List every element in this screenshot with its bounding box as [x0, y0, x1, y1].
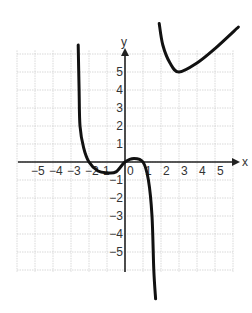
- y-tick-label: 5: [116, 65, 123, 79]
- axes: x y: [18, 35, 248, 272]
- y-axis-label: y: [121, 35, 127, 49]
- y-tick-label: −4: [109, 227, 123, 241]
- function-graph: x y −5−4−3−21012345 54321−1−2−3−4−5: [0, 0, 252, 313]
- x-axis-arrow-icon: [232, 158, 240, 166]
- y-tick-label: 3: [116, 101, 123, 115]
- x-tick-label: −5: [31, 164, 45, 178]
- x-tick-label: 4: [199, 164, 206, 178]
- x-tick-label: 2: [163, 164, 170, 178]
- y-tick-label: −1: [109, 173, 123, 187]
- x-tick-label: −3: [67, 164, 81, 178]
- y-tick-label: −3: [109, 209, 123, 223]
- y-tick-label: 1: [116, 137, 123, 151]
- y-tick-label: −5: [109, 245, 123, 259]
- y-tick-label: −2: [109, 191, 123, 205]
- x-tick-label: 5: [217, 164, 224, 178]
- y-tick-label: 4: [116, 83, 123, 97]
- x-axis-label: x: [242, 155, 248, 169]
- x-tick-label: 3: [181, 164, 188, 178]
- x-tick-label: 0: [127, 164, 134, 178]
- x-tick-label: −4: [49, 164, 63, 178]
- y-axis-arrow-icon: [121, 48, 129, 56]
- y-tick-label: 2: [116, 119, 123, 133]
- function-curve: [159, 23, 238, 72]
- x-tick-labels: −5−4−3−21012345: [31, 164, 224, 178]
- curves: [78, 23, 238, 298]
